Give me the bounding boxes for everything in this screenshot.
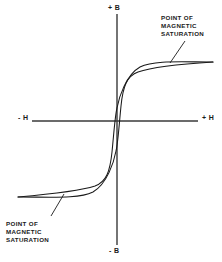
- annotation-top-line-3: SATURATION: [161, 30, 204, 38]
- axis-label-negative-b: - B: [109, 247, 119, 255]
- annotation-bottom-line-3: SATURATION: [6, 236, 49, 244]
- annotation-top-line-1: POINT OF: [161, 14, 204, 22]
- annotation-bottom-line-2: MAGNETIC: [6, 228, 49, 236]
- hysteresis-ascending-branch: [18, 62, 213, 197]
- hysteresis-descending-branch: [18, 62, 213, 197]
- axis-label-positive-h: + H: [202, 114, 214, 122]
- axis-label-positive-b: + B: [108, 4, 120, 12]
- annotation-saturation-top-right: POINT OF MAGNETIC SATURATION: [161, 14, 204, 39]
- annotation-bottom-line-1: POINT OF: [6, 220, 49, 228]
- annotation-saturation-bottom-left: POINT OF MAGNETIC SATURATION: [6, 220, 49, 245]
- annotation-top-line-2: MAGNETIC: [161, 22, 204, 30]
- axis-label-negative-h: - H: [18, 114, 28, 122]
- saturation-leader-line-top: [170, 41, 185, 63]
- hysteresis-loop-figure: + B - B - H + H POINT OF MAGNETIC SATURA…: [0, 0, 222, 262]
